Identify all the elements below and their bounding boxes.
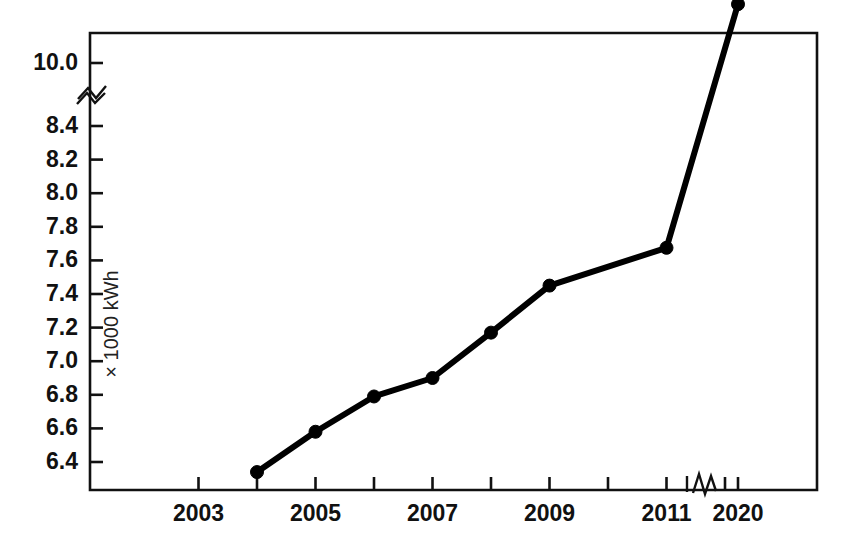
chart-canvas: 6.46.66.87.07.27.47.67.88.08.28.410.0200… (0, 0, 849, 558)
y-axis-tick-label: 6.8 (46, 381, 78, 407)
y-axis-tick-label: 8.2 (46, 146, 78, 172)
data-point-marker[interactable] (660, 241, 673, 254)
y-axis-title: × 1000 kWh (100, 270, 122, 377)
x-axis-tick-label: 2007 (407, 500, 458, 526)
y-axis-tick-label: 10.0 (33, 49, 78, 75)
y-axis-tick-label: 8.0 (46, 179, 78, 205)
y-axis-tick-label: 7.4 (46, 280, 78, 306)
data-point-marker[interactable] (732, 0, 745, 11)
y-axis-tick-label: 6.4 (46, 448, 78, 474)
y-axis-tick-label: 8.4 (46, 112, 78, 138)
y-axis-tick-label: 7.8 (46, 213, 78, 239)
x-axis-tick-label: 2003 (173, 500, 224, 526)
x-axis-tick-label: 2011 (642, 500, 692, 526)
y-axis-tick-label: 7.2 (46, 314, 78, 340)
data-point-marker[interactable] (251, 466, 264, 479)
data-point-marker[interactable] (309, 425, 322, 438)
y-axis-tick-label: 7.0 (46, 347, 78, 373)
x-axis-tick-label: 2005 (290, 500, 341, 526)
y-axis-break-icon (77, 86, 106, 104)
data-point-marker[interactable] (543, 279, 556, 292)
data-point-marker[interactable] (426, 372, 439, 385)
data-series-line (257, 4, 738, 472)
x-axis-tick-label: 2020 (712, 500, 763, 526)
data-point-marker[interactable] (368, 390, 381, 403)
line-chart: 6.46.66.87.07.27.47.67.88.08.28.410.0200… (0, 0, 849, 558)
x-axis-tick-label: 2009 (524, 500, 575, 526)
data-point-marker[interactable] (485, 326, 498, 339)
y-axis-tick-label: 7.6 (46, 246, 78, 272)
y-axis-tick-label: 6.6 (46, 414, 78, 440)
